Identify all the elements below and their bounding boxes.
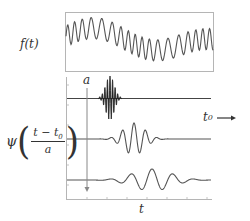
signal-label: f(t) — [20, 37, 39, 51]
signal-waveform — [66, 18, 213, 61]
shift-arrow-icon — [231, 116, 236, 121]
scale-label: a — [83, 73, 90, 87]
left-paren: ( — [17, 122, 30, 159]
wavelet-label: ψ ( t − t0 a ) — [6, 124, 79, 158]
fraction-numerator: t − t0 — [31, 126, 65, 142]
dilated-wavelet — [67, 169, 211, 190]
numerator-text: t − t — [33, 126, 58, 139]
right-paren: ) — [66, 122, 79, 159]
medium-wavelet — [67, 123, 211, 153]
psi-symbol: ψ — [6, 133, 17, 149]
time-axis-label: t — [139, 202, 144, 216]
scale-arrow-icon — [85, 187, 90, 192]
compressed-wavelet — [98, 76, 122, 119]
numerator-sub: 0 — [58, 133, 62, 141]
fraction: t − t0 a — [31, 126, 65, 156]
signal-frame — [66, 13, 214, 72]
shift-label-sub: 0 — [208, 113, 213, 122]
fraction-denominator: a — [45, 142, 52, 156]
shift-label: t0 — [203, 110, 213, 124]
